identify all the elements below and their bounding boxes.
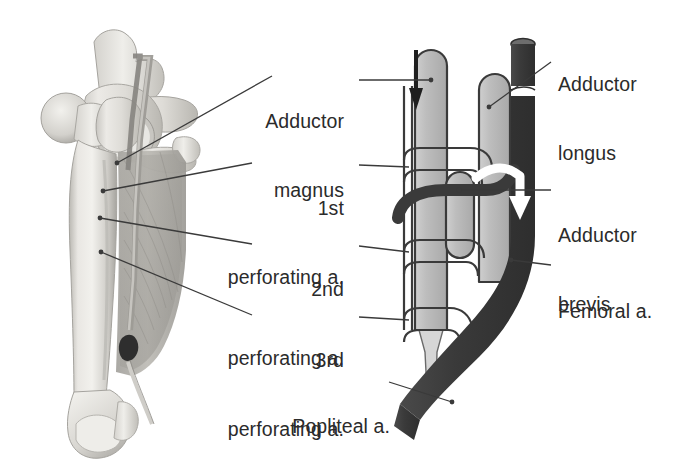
label-popliteal-line-1: Popliteal a. xyxy=(150,415,390,438)
label-adductor-magnus-line-1: Adductor xyxy=(134,110,344,133)
label-adductor-brevis-line-1: Adductor xyxy=(558,224,697,247)
label-femoral-artery-line-1: Femoral a. xyxy=(558,300,697,323)
label-first-perforating-line-1: 1st xyxy=(134,197,344,220)
adductor-magnus-schematic xyxy=(415,50,447,392)
label-femoral-artery: Femoral a. xyxy=(558,254,697,369)
label-second-perforating-line-1: 2nd xyxy=(134,278,344,301)
label-adductor-longus-line-2: longus xyxy=(558,142,697,165)
figure-canvas: Adductor magnus 1st perforating a. 2nd p… xyxy=(0,0,697,474)
label-adductor-longus-line-1: Adductor xyxy=(558,73,697,96)
label-popliteal-artery: Popliteal a. passing through adductor hi… xyxy=(150,369,390,474)
